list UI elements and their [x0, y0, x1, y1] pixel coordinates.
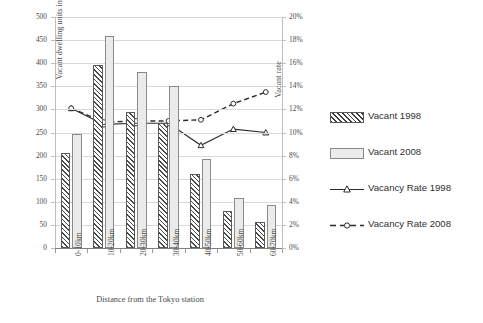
- y-axis-right-title: Vacant rate: [274, 35, 283, 125]
- y-axis-right-tick-label: 20%: [289, 12, 315, 21]
- y-axis-left-tick-label: 50: [15, 220, 47, 229]
- legend-label: Vacant 1998: [368, 110, 421, 121]
- y-axis-right-tick-label: 18%: [289, 35, 315, 44]
- bar-vacant-1998: [61, 153, 71, 248]
- chart-legend: Vacant 1998 Vacant 2008 Vacancy Rate 199…: [330, 108, 480, 252]
- legend-item-vacancy-rate-2008: Vacancy Rate 2008: [330, 216, 480, 252]
- y-axis-right-tick-label: 16%: [289, 58, 315, 67]
- x-axis-tick: [282, 249, 283, 253]
- hatch-swatch-icon: [330, 112, 364, 123]
- x-axis-tick-label: 20-30km: [139, 229, 148, 256]
- chart-screenshot: 0501001502002503003504004505000%2%4%6%8%…: [0, 0, 483, 323]
- bar-vacant-1998: [223, 211, 233, 248]
- x-axis-tick-label: 60-70km: [269, 229, 278, 256]
- y-axis-right-tick-label: 8%: [289, 151, 315, 160]
- x-axis-tick: [120, 249, 121, 253]
- y-axis-right-tick-label: 0%: [289, 243, 315, 252]
- x-axis-tick: [185, 249, 186, 253]
- bar-vacant-2008: [137, 72, 147, 248]
- vacancy-rate-2008-marker: [263, 90, 268, 95]
- y-axis-left-title: Vacant dwelling units in thousands: [55, 0, 64, 123]
- y-axis-right-tick-label: 12%: [289, 104, 315, 113]
- x-axis-tick: [217, 249, 218, 253]
- gridline: [55, 40, 282, 41]
- bar-vacant-2008: [72, 134, 82, 248]
- y-axis-left-tick-label: 200: [15, 151, 47, 160]
- solid-swatch-icon: [330, 148, 364, 159]
- bar-vacant-1998: [158, 123, 168, 248]
- line-triangle-solid-icon: [330, 184, 364, 195]
- y-axis-left-tick-label: 0: [15, 243, 47, 252]
- legend-item-vacant-2008: Vacant 2008: [330, 144, 480, 180]
- y-axis-left-tick-label: 250: [15, 128, 47, 137]
- y-axis-right-tick-label: 2%: [289, 220, 315, 229]
- bar-vacant-1998: [126, 112, 136, 248]
- y-axis-left-tick-label: 400: [15, 58, 47, 67]
- gridline: [55, 63, 282, 64]
- x-axis-tick-label: 30-40km: [172, 229, 181, 256]
- y-axis-right-tick-label: 14%: [289, 81, 315, 90]
- bar-vacant-1998: [255, 222, 265, 248]
- y-axis-left-tick-label: 350: [15, 81, 47, 90]
- x-axis-tick-label: 10-20km: [107, 229, 116, 256]
- legend-label: Vacancy Rate 2008: [368, 218, 451, 229]
- x-axis-tick: [87, 249, 88, 253]
- bar-vacant-1998: [190, 174, 200, 248]
- plot-area: 0501001502002503003504004505000%2%4%6%8%…: [55, 17, 282, 248]
- bar-vacant-2008: [105, 36, 115, 248]
- legend-item-vacant-1998: Vacant 1998: [330, 108, 480, 144]
- x-axis-tick: [152, 249, 153, 253]
- x-axis-tick: [55, 249, 56, 253]
- x-axis: [55, 248, 282, 249]
- y-axis-left-tick-label: 100: [15, 197, 47, 206]
- bar-vacant-2008: [169, 86, 179, 248]
- x-axis-tick-label: 40-50km: [204, 229, 213, 256]
- y-axis-left-tick-label: 300: [15, 104, 47, 113]
- x-axis-tick-label: 50-60km: [236, 229, 245, 256]
- line-circle-dashed-icon: [330, 220, 364, 231]
- legend-label: Vacant 2008: [368, 146, 421, 157]
- legend-item-vacancy-rate-1998: Vacancy Rate 1998: [330, 180, 480, 216]
- gridline: [55, 17, 282, 18]
- legend-label: Vacancy Rate 1998: [368, 182, 451, 193]
- vacancy-rate-2008-marker: [231, 101, 236, 106]
- y-axis-right-tick-label: 10%: [289, 128, 315, 137]
- y-axis-left-tick-label: 500: [15, 12, 47, 21]
- x-axis-tick-label: 0-10km: [74, 232, 83, 256]
- y-axis-left-tick-label: 450: [15, 35, 47, 44]
- y-axis-right-tick-label: 6%: [289, 174, 315, 183]
- x-axis-tick: [250, 249, 251, 253]
- vacancy-rate-2008-marker: [199, 117, 204, 122]
- x-axis-title: Distance from the Tokyo station: [0, 295, 300, 304]
- bar-vacant-1998: [93, 65, 103, 248]
- y-axis-left-tick-label: 150: [15, 174, 47, 183]
- y-axis-right-tick-label: 4%: [289, 197, 315, 206]
